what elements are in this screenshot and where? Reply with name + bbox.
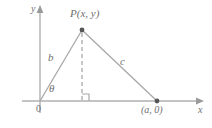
figure-canvas [0,0,212,128]
angle-theta-label: θ [49,83,54,94]
geometry-figure: y x P(x, y) b c θ 0 (a, 0) [0,0,212,128]
point-p-label: P(x, y) [70,8,99,19]
y-axis-label: y [31,4,35,14]
right-angle-marker-icon [82,94,89,101]
point-a-label: (a, 0) [141,105,163,115]
segment-c-label: c [120,56,125,67]
segment-b-label: b [48,52,54,63]
y-axis-arrowhead [37,5,44,13]
point-a-dot [155,99,160,104]
origin-label: 0 [36,104,41,114]
segment-b [40,30,82,101]
x-axis-label: x [198,105,202,115]
point-p-dot [80,28,85,33]
x-axis [22,98,204,105]
